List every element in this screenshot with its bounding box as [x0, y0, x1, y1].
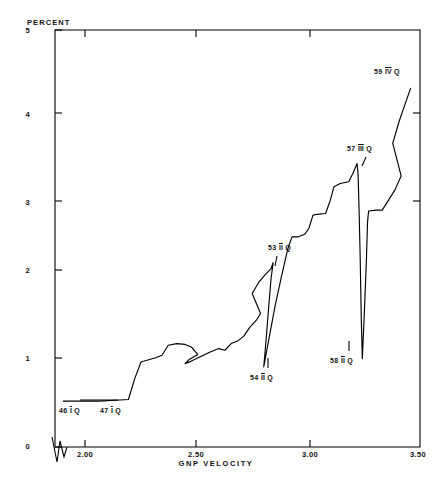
- annotation-leaders: [80, 157, 366, 400]
- data-series-line: [63, 88, 410, 401]
- x-axis-ticks: [85, 30, 310, 447]
- plot-svg: [0, 0, 432, 478]
- axis-break-icon: [52, 437, 67, 462]
- chart-figure: FIGURE 5. GNP VELOCITY PERCENT GNP VELOC…: [0, 0, 432, 478]
- y-axis-ticks: [55, 30, 62, 447]
- axis-frame: [55, 30, 420, 447]
- right-axis-ticks: [413, 113, 420, 201]
